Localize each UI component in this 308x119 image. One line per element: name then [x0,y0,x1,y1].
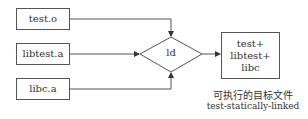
input-box-libc-a: libc.a [16,78,70,100]
linker-label: ld [156,47,186,58]
input-box-libtest-a: libtest.a [16,43,70,65]
input-box-test-o: test.o [16,8,70,30]
output-line: test+ [237,38,264,50]
input-label: test.o [29,13,57,25]
output-box: test+ libtest+ libc [221,32,280,79]
input-label: libtest.a [22,48,63,60]
output-line: libtest+ [230,50,270,62]
output-caption-filename: test-statically-linked [198,101,308,111]
output-line: libc [241,62,259,74]
input-label: libc.a [29,83,57,95]
output-caption-title: 可执行的目标文件 [200,87,305,102]
